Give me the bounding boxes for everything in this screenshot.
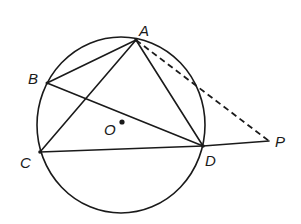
point-c-dot <box>38 150 42 154</box>
center-o-dot <box>119 119 124 124</box>
label-a: A <box>138 22 149 39</box>
segment-ab <box>47 40 136 83</box>
segment-ac <box>40 40 136 152</box>
point-b-dot <box>46 82 49 85</box>
segment-cd <box>40 146 203 152</box>
point-a-dot <box>134 38 138 42</box>
label-b: B <box>28 70 38 87</box>
segment-bd <box>47 83 203 146</box>
geometry-diagram: A B C D O P <box>0 0 301 224</box>
label-o: O <box>104 121 116 138</box>
label-p: P <box>275 133 285 150</box>
segment-ap-dashed <box>136 40 269 141</box>
label-d: D <box>205 152 216 169</box>
label-c: C <box>20 154 31 171</box>
segment-ad <box>136 40 203 146</box>
point-d-dot <box>201 144 205 148</box>
segment-dp <box>203 141 269 146</box>
